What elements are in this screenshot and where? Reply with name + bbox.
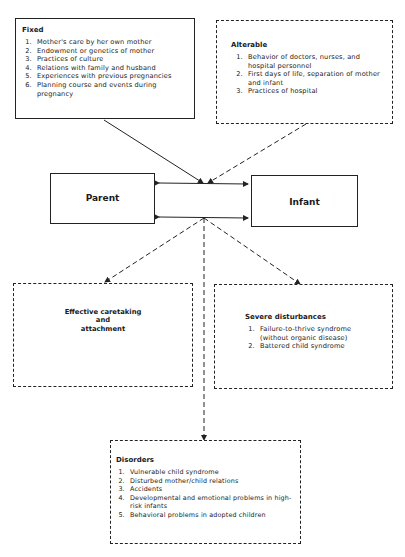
list-item: Mother's care by her own mother [34, 38, 188, 47]
disorders-box: Disorders Vulnerable child syndrome Dist… [110, 440, 301, 544]
alterable-title: Alterable [231, 41, 384, 49]
effective-line-2: and [14, 316, 192, 324]
fixed-title: Fixed [22, 26, 188, 34]
list-item: Planning course and events during pregna… [34, 81, 188, 98]
list-item: Failure-to-thrive syndrome (without orga… [257, 325, 375, 342]
list-item: Practices of culture [34, 55, 188, 64]
list-item: Behavior of doctors, nurses, and hospita… [245, 53, 384, 70]
list-item: Experiences with previous pregnancies [34, 72, 188, 81]
list-item: Disturbed mother/child relations [127, 477, 296, 486]
severe-list: Failure-to-thrive syndrome (without orga… [245, 325, 384, 351]
list-item: Accidents [127, 485, 296, 494]
list-item: Practices of hospital [245, 87, 384, 96]
effective-line-1: Effective caretaking [14, 308, 192, 316]
effective-arrow [105, 218, 204, 282]
parent-box: Parent [50, 173, 155, 224]
severe-title: Severe disturbances [245, 313, 384, 321]
fixed-factors-box: Fixed Mother's care by her own mother En… [15, 18, 195, 119]
list-item: First days of life, separation of mother… [245, 70, 384, 87]
list-item: Behavioral problems in adopted children [127, 511, 296, 520]
infant-box: Infant [251, 175, 358, 227]
severe-arrow [204, 218, 300, 284]
list-item: Relations with family and husband [34, 64, 188, 73]
disorders-list: Vulnerable child syndrome Disturbed moth… [116, 468, 296, 520]
list-item: Endowment or genetics of mother [34, 47, 188, 56]
parent-label: Parent [51, 193, 154, 203]
effective-line-3: attachment [14, 325, 192, 333]
alterable-factors-box: Alterable Behavior of doctors, nurses, a… [216, 20, 393, 124]
list-item: Battered child syndrome [257, 342, 384, 351]
infant-label: Infant [252, 197, 357, 207]
parent-infant-arrow-top [159, 183, 248, 184]
list-item: Developmental and emotional problems in … [127, 494, 296, 511]
alterable-list: Behavior of doctors, nurses, and hospita… [231, 53, 384, 96]
disorders-title: Disorders [116, 456, 296, 464]
list-item: Vulnerable child syndrome [127, 468, 296, 477]
effective-caretaking-box: Effective caretaking and attachment [13, 283, 193, 387]
fixed-list: Mother's care by her own mother Endowmen… [22, 38, 188, 98]
severe-disturbances-box: Severe disturbances Failure-to-thrive sy… [214, 284, 393, 389]
